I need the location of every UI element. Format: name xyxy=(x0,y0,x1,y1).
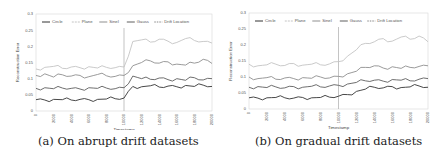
x-tick: 2000 xyxy=(51,113,56,123)
legend-label: Circle xyxy=(265,18,276,23)
x-tick: 10000 xyxy=(336,111,341,123)
x-tick: 20000 xyxy=(425,111,430,123)
svg-text:10000: 10000 xyxy=(121,113,126,125)
svg-text:8000: 8000 xyxy=(104,113,109,123)
y-tick-label: 0.2 xyxy=(27,44,33,49)
x-axis-title: Timestamp xyxy=(113,127,135,130)
y-tick-label: 0.15 xyxy=(238,58,247,63)
svg-text:0: 0 xyxy=(246,111,251,114)
legend-label: Gauss xyxy=(137,19,149,24)
y-tick-label: 0.05 xyxy=(238,90,247,95)
x-tick: 16000 xyxy=(174,113,179,125)
y-axis-title: Reconstruction Error xyxy=(228,41,233,81)
svg-text:6000: 6000 xyxy=(300,111,305,121)
svg-text:2000: 2000 xyxy=(51,113,56,123)
svg-text:12000: 12000 xyxy=(139,113,144,125)
x-tick: 6000 xyxy=(300,111,305,121)
y-tick-label: 0.05 xyxy=(25,92,34,97)
x-tick: 2000 xyxy=(264,111,269,121)
svg-text:2000: 2000 xyxy=(264,111,269,121)
chart-panel-gradual: 00.050.10.150.20.250.3020004000600080001… xyxy=(222,0,444,130)
y-tick-label: 0.3 xyxy=(27,11,33,16)
abrupt-drift-chart: 00.050.10.150.20.250.3020004000600080001… xyxy=(0,0,222,130)
svg-text:20000: 20000 xyxy=(425,111,430,123)
y-tick-label: 0.1 xyxy=(27,76,33,81)
x-tick: 14000 xyxy=(372,111,377,123)
svg-text:14000: 14000 xyxy=(157,113,162,125)
x-tick: 0 xyxy=(246,111,251,114)
x-tick: 8000 xyxy=(318,111,323,121)
x-tick: 4000 xyxy=(282,111,287,121)
legend: CirclePlaneSineIGaussDrift Location xyxy=(255,18,403,23)
svg-text:16000: 16000 xyxy=(174,113,179,125)
y-tick-label: 0.25 xyxy=(25,28,34,33)
x-tick: 0 xyxy=(33,113,38,116)
x-tick: 20000 xyxy=(209,113,214,125)
x-tick: 18000 xyxy=(192,113,197,125)
caption-abrupt: (a) On abrupt drift datasets xyxy=(38,134,199,148)
y-tick-label: 0 xyxy=(31,108,34,113)
svg-text:12000: 12000 xyxy=(354,111,359,123)
svg-text:Reconstruction Error: Reconstruction Error xyxy=(228,41,233,81)
legend-label: SineI xyxy=(322,18,332,23)
legend-label: Plane xyxy=(82,19,93,24)
y-tick-label: 0.1 xyxy=(240,74,246,79)
svg-text:4000: 4000 xyxy=(69,113,74,123)
gradual-drift-chart: 00.050.10.150.20.250.3020004000600080001… xyxy=(222,0,444,130)
svg-text:16000: 16000 xyxy=(390,111,395,123)
svg-text:Reconstruction Error: Reconstruction Error xyxy=(15,42,20,82)
x-tick: 16000 xyxy=(390,111,395,123)
svg-text:6000: 6000 xyxy=(86,113,91,123)
legend-label: SineI xyxy=(109,19,119,24)
y-axis-title: Reconstruction Error xyxy=(15,42,20,82)
chart-panel-abrupt: 00.050.10.150.20.250.3020004000600080001… xyxy=(0,0,222,130)
svg-text:10000: 10000 xyxy=(336,111,341,123)
caption-gradual: (b) On gradual drift datasets xyxy=(255,134,422,148)
x-tick: 10000 xyxy=(121,113,126,125)
legend: CirclePlaneSineIGaussDrift Location xyxy=(42,19,190,24)
legend-label: Plane xyxy=(295,18,306,23)
svg-text:14000: 14000 xyxy=(372,111,377,123)
legend-label: Drift Location xyxy=(377,18,402,23)
svg-text:20000: 20000 xyxy=(209,113,214,125)
svg-text:4000: 4000 xyxy=(282,111,287,121)
x-tick: 12000 xyxy=(139,113,144,125)
x-axis-title: Timestamp xyxy=(328,125,350,130)
x-tick: 12000 xyxy=(354,111,359,123)
y-tick-label: 0.2 xyxy=(240,42,246,47)
x-tick: 14000 xyxy=(157,113,162,125)
y-tick-label: 0.25 xyxy=(238,26,247,31)
svg-text:18000: 18000 xyxy=(408,111,413,123)
x-tick: 4000 xyxy=(69,113,74,123)
svg-text:8000: 8000 xyxy=(318,111,323,121)
x-tick: 6000 xyxy=(86,113,91,123)
legend-label: Gauss xyxy=(350,18,362,23)
x-tick: 8000 xyxy=(104,113,109,123)
legend-label: Drift Location xyxy=(164,19,189,24)
x-tick: 18000 xyxy=(408,111,413,123)
legend-label: Circle xyxy=(52,19,63,24)
svg-text:18000: 18000 xyxy=(192,113,197,125)
y-tick-label: 0 xyxy=(244,106,247,111)
y-tick-label: 0.3 xyxy=(240,10,246,15)
y-tick-label: 0.15 xyxy=(25,60,34,65)
svg-text:0: 0 xyxy=(33,113,38,116)
